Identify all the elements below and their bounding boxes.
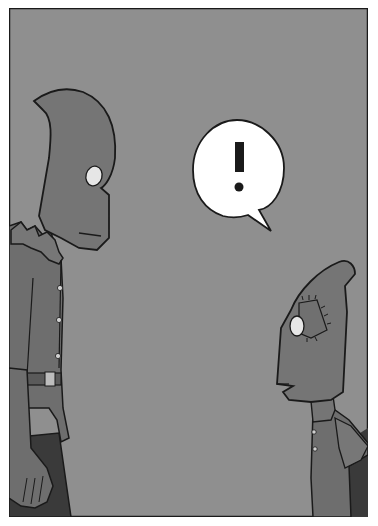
button-icon — [56, 317, 61, 322]
exclamation-dot-icon — [235, 183, 244, 192]
button-icon — [313, 447, 317, 451]
belt-buckle — [45, 372, 55, 386]
comic-panel — [9, 8, 368, 517]
left-figure-head — [34, 89, 115, 250]
button-icon — [57, 285, 62, 290]
button-icon — [312, 430, 316, 434]
exclamation-mark-icon — [235, 142, 244, 172]
right-figure-eye — [290, 316, 304, 336]
button-icon — [55, 353, 60, 358]
